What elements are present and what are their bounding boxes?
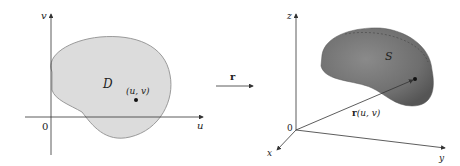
origin-label-left: 0 [42,121,48,132]
surface-point [413,77,417,81]
point-uv [134,98,138,102]
vector-label: r(u, v) [352,108,381,118]
mapping-arrow: r [216,71,253,86]
u-axis-label: u [197,120,203,131]
z-axis-label: z [286,11,292,21]
uv-plane: v u 0 D (u, v) [25,10,203,155]
x-axis [277,130,296,150]
mapping-label-r: r [230,71,236,82]
surface-S [321,28,433,106]
point-label-uv: (u, v) [126,86,150,96]
parametric-surface-diagram: v u 0 D (u, v) r z y x 0 S r(u, v) [0,0,460,166]
surface-label-S: S [385,50,393,63]
origin-label-right: 0 [287,123,293,133]
v-axis-label: v [41,10,47,21]
y-axis-label: y [438,153,445,163]
position-vector [296,80,413,130]
y-axis [296,130,445,148]
region-label-D: D [102,77,113,91]
xyz-space: z y x 0 S r(u, v) [267,11,445,163]
x-axis-label: x [267,148,272,158]
